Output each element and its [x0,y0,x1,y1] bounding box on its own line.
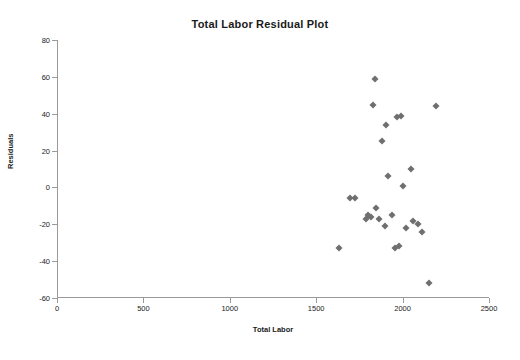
data-point [433,103,440,110]
data-point [407,165,414,172]
x-tick-label: 2000 [394,304,411,313]
data-point [369,101,376,108]
data-point [336,245,343,252]
x-tick [230,298,231,303]
data-point [385,173,392,180]
y-tick [52,114,57,115]
x-tick-label: 0 [55,304,59,313]
x-tick [316,298,317,303]
x-tick [403,298,404,303]
data-point [398,112,405,119]
x-tick-label: 500 [137,304,150,313]
data-point [402,224,409,231]
y-tick [52,40,57,41]
data-point [425,280,432,287]
y-tick [52,261,57,262]
data-point [388,212,395,219]
x-tick-label: 1000 [221,304,238,313]
y-axis-line [57,40,58,298]
data-point [351,195,358,202]
x-tick [57,298,58,303]
y-tick-label: 80 [42,36,50,45]
y-tick [52,151,57,152]
data-point [415,221,422,228]
data-point [381,223,388,230]
scatter-chart: Total Labor Residual Plot Residuals Tota… [0,0,520,360]
data-point [418,228,425,235]
y-tick-label: 60 [42,72,50,81]
data-point [375,215,382,222]
y-tick [52,224,57,225]
y-tick [52,187,57,188]
data-point [371,75,378,82]
data-point [382,121,389,128]
x-tick-label: 2500 [481,304,498,313]
x-axis-title: Total Labor [57,325,489,334]
x-tick [489,298,490,303]
y-tick [52,77,57,78]
data-point [378,138,385,145]
x-axis-line [57,297,489,298]
chart-title: Total Labor Residual Plot [0,18,520,30]
x-tick [143,298,144,303]
y-tick-label: 20 [42,146,50,155]
y-tick-label: 40 [42,109,50,118]
y-tick-label: -20 [39,220,50,229]
y-tick-label: 0 [46,183,50,192]
plot-area: -60-40-20020406080 05001000150020002500 [57,40,489,298]
data-point [399,182,406,189]
x-tick-label: 1500 [308,304,325,313]
y-axis-title: Residuals [6,134,15,169]
data-point [373,204,380,211]
y-tick-label: -60 [39,294,50,303]
y-tick-label: -40 [39,257,50,266]
